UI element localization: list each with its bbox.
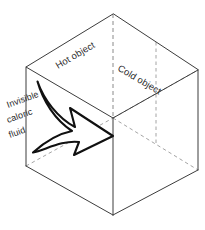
label-caloric-line1: Invisible [5, 89, 40, 110]
cube-edges-group [26, 14, 198, 215]
hot-object-label-group: Hot object [53, 39, 97, 71]
caloric-fluid-diagram: Hot object Cold object Invisible caloric… [0, 0, 205, 230]
caloric-fluid-arrow [33, 82, 113, 156]
label-cold-object: Cold object [116, 62, 164, 96]
edge-top-face [26, 14, 198, 118]
label-hot-object: Hot object [53, 39, 97, 71]
edge-bottom-front-right [113, 170, 198, 215]
label-caloric-line3: fluid [7, 125, 26, 140]
caloric-fluid-label-group: Invisible caloric fluid [5, 89, 40, 140]
cold-object-label-group: Cold object [116, 62, 164, 96]
diagram-canvas: Hot object Cold object Invisible caloric… [0, 0, 205, 230]
caloric-fluid-arrow-group [33, 82, 113, 156]
